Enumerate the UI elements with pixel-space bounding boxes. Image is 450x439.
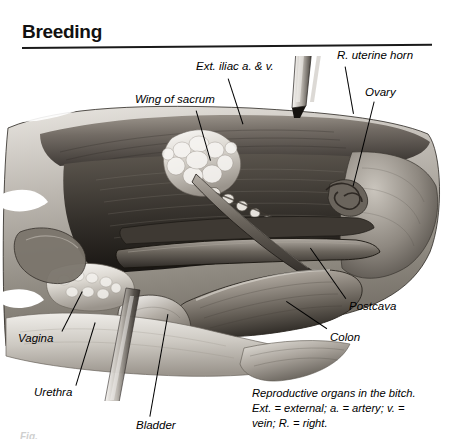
caption-line-2: Ext. = external; a. = artery; v. = [252, 401, 444, 416]
page-title: Breeding [22, 21, 102, 43]
label-right-uterine-horn: R. uterine horn [337, 49, 413, 62]
anatomical-illustration [0, 56, 450, 401]
label-urethra: Urethra [34, 386, 72, 399]
label-wing-of-sacrum: Wing of sacrum [135, 93, 215, 106]
label-bladder: Bladder [136, 419, 176, 432]
label-ovary: Ovary [365, 86, 396, 99]
label-ext-iliac-artery-vein: Ext. iliac a. & v. [196, 60, 274, 73]
caption-line-3: vein; R. = right. [252, 416, 444, 431]
label-vagina: Vagina [18, 332, 53, 345]
figure-caption: Reproductive organs in the bitch. Ext. =… [252, 386, 444, 430]
clipped-footer-text: Fig. [20, 431, 38, 439]
caption-line-1: Reproductive organs in the bitch. [252, 386, 444, 401]
label-colon: Colon [330, 331, 360, 344]
label-postcava: Postcava [349, 300, 396, 313]
figure-page: Breeding [0, 0, 450, 439]
